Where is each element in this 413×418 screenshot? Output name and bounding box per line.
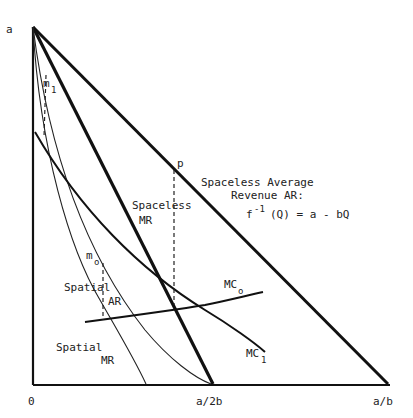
m1-label: m <box>43 77 50 90</box>
origin-label: 0 <box>28 395 35 408</box>
m0-label: m <box>86 249 93 262</box>
mc0-subscript: o <box>238 286 243 296</box>
y-intercept-label: a <box>6 23 13 36</box>
spaceless-ar-formula-exp: -1 <box>254 204 265 214</box>
diagram-canvas: a 0 a/2b a/b p m 1 m o Spaceless Average… <box>0 0 413 418</box>
spatial-mr-label-line2: MR <box>101 354 115 367</box>
spaceless-mr-label-line2: MR <box>139 214 153 227</box>
spatial-ar-label-line2: AR <box>108 295 122 308</box>
mc0-label: MC <box>224 278 237 291</box>
m0-subscript: o <box>94 257 99 267</box>
spaceless-ar-formula-rest: (Q) = a - bQ <box>270 208 349 221</box>
mc1-subscript: 1 <box>261 355 266 365</box>
mc1-label: MC <box>246 347 259 360</box>
x-tick-a-b: a/b <box>373 395 393 408</box>
m1-subscript: 1 <box>51 85 56 95</box>
point-p-label: p <box>177 157 184 170</box>
spatial-ar-label-line1: Spatial <box>64 281 110 294</box>
spaceless-ar-formula-f: f <box>246 208 253 221</box>
spaceless-ar-label-line2: Revenue AR: <box>231 189 304 202</box>
spatial-mr-label-line1: Spatial <box>56 341 102 354</box>
mc1-curve <box>35 132 265 352</box>
x-tick-a-2b: a/2b <box>196 395 223 408</box>
spaceless-mr-label-line1: Spaceless <box>132 199 192 212</box>
spatial-mr-curve <box>33 27 146 384</box>
spaceless-ar-label-line1: Spaceless Average <box>201 176 314 189</box>
